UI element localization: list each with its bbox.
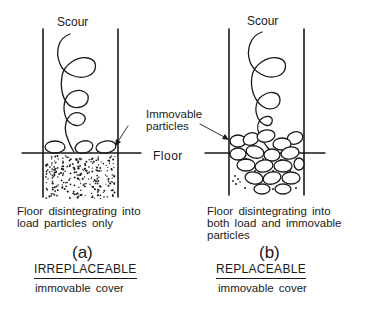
panel-a-stipple xyxy=(45,155,115,199)
panel-b-cover-label: immovable cover xyxy=(218,282,307,294)
panel-b-type-label: REPLACEABLE xyxy=(216,263,306,279)
panel-a-type-label: IRREPLACEABLE xyxy=(34,263,137,279)
panel-b-caption-line2: both load and immovable xyxy=(207,218,342,230)
panel-b-drawing xyxy=(200,29,325,195)
panel-b-cobbles xyxy=(230,129,305,194)
panel-a-letter: (a) xyxy=(72,244,93,262)
panel-b-caption-line3: particles xyxy=(207,230,250,242)
panel-a-caption-line2: load particles only xyxy=(17,218,113,230)
panel-b-scour-label: Scour xyxy=(247,15,278,27)
immovable-label-line2: particles xyxy=(146,120,189,132)
panel-a-cover-label: immovable cover xyxy=(35,282,124,294)
floor-label: Floor xyxy=(153,150,183,162)
immovable-label-line1: Immovable xyxy=(146,108,202,120)
panel-a-particle xyxy=(45,141,65,153)
panel-b-caption-line1: Floor disintegrating into xyxy=(207,206,331,218)
panel-b-leader-line xyxy=(200,124,226,138)
panel-a-scour-vortex xyxy=(58,34,96,152)
panel-b-letter: (b) xyxy=(259,244,280,262)
panel-a-scour-label: Scour xyxy=(57,16,88,28)
panel-a-drawing xyxy=(22,29,141,197)
panel-a-caption-line1: Floor disintegrating into xyxy=(17,206,141,218)
